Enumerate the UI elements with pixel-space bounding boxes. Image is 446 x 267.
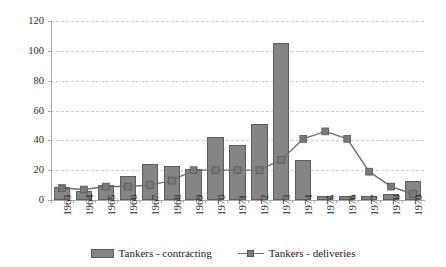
bar-swatch-icon (91, 249, 114, 258)
legend-label-deliveries: Tankers - deliveries (269, 248, 356, 259)
x-label-slot: 1969 (183, 203, 205, 243)
x-tick-mark (117, 200, 118, 203)
y-tick-label: 120 (0, 16, 44, 26)
x-label-slot: 1963 (51, 203, 73, 243)
x-label-slot: 1974 (292, 203, 314, 243)
line-marker[interactable] (212, 167, 219, 174)
x-label-slot: 1964 (73, 203, 95, 243)
line-marker[interactable] (124, 183, 131, 190)
line-marker[interactable] (278, 156, 285, 163)
line-marker[interactable] (366, 168, 373, 175)
x-label-slot: 1976 (336, 203, 358, 243)
x-tick-label: 1969 (194, 195, 205, 216)
x-tick-label: 1976 (347, 195, 358, 216)
x-tick-label: 1967 (150, 195, 161, 216)
x-label-slot: 1975 (314, 203, 336, 243)
x-tick-mark (248, 200, 249, 203)
legend-item-deliveries: Tankers - deliveries (238, 248, 356, 259)
line-swatch-icon (238, 249, 264, 258)
x-label-slot: 1978 (380, 203, 402, 243)
y-tick-label: 80 (0, 76, 44, 86)
x-tick-label: 1968 (172, 195, 183, 216)
y-tick-label: 0 (0, 195, 44, 205)
x-label-slot: 1965 (95, 203, 117, 243)
x-tick-mark (270, 200, 271, 203)
line-series-tankers-deliveries (51, 21, 424, 200)
line-marker[interactable] (322, 128, 329, 135)
y-tick-label: 100 (0, 46, 44, 56)
line-marker[interactable] (388, 183, 395, 190)
x-tick-mark (292, 200, 293, 203)
x-tick-mark (161, 200, 162, 203)
x-tick-mark (402, 200, 403, 203)
x-tick-mark (51, 200, 52, 203)
x-label-slot: 1971 (227, 203, 249, 243)
x-tick-label: 1974 (303, 195, 314, 216)
plot-area (51, 21, 424, 200)
x-tick-label: 1966 (128, 195, 139, 216)
x-tick-mark (358, 200, 359, 203)
x-tick-mark (205, 200, 206, 203)
x-label-slot: 1979 (402, 203, 424, 243)
legend-item-contracting: Tankers - contracting (91, 248, 212, 259)
y-tick-label: 40 (0, 135, 44, 145)
x-label-slot: 1972 (248, 203, 270, 243)
x-label-slot: 1973 (270, 203, 292, 243)
line-marker[interactable] (344, 135, 351, 142)
x-label-slot: 1966 (117, 203, 139, 243)
line-marker[interactable] (190, 167, 197, 174)
y-tick-label: 60 (0, 106, 44, 116)
line-marker[interactable] (146, 182, 153, 189)
x-tick-label: 1963 (62, 195, 73, 216)
x-tick-mark (227, 200, 228, 203)
x-tick-label: 1971 (237, 195, 248, 216)
line-marker[interactable] (81, 186, 88, 193)
x-tick-label: 1973 (281, 195, 292, 216)
x-tick-mark (380, 200, 381, 203)
x-tick-label: 1977 (369, 195, 380, 216)
x-tick-label: 1972 (259, 195, 270, 216)
x-tick-mark (314, 200, 315, 203)
x-tick-mark (95, 200, 96, 203)
x-tick-label: 1964 (84, 195, 95, 216)
x-tick-mark (139, 200, 140, 203)
line-marker[interactable] (300, 135, 307, 142)
line-marker[interactable] (59, 185, 66, 192)
x-tick-label: 1975 (325, 195, 336, 216)
x-tick-label: 1970 (216, 195, 227, 216)
x-tick-label: 1978 (391, 195, 402, 216)
line-marker[interactable] (234, 167, 241, 174)
chart-legend: Tankers - contracting Tankers - deliveri… (0, 243, 446, 263)
x-label-slot: 1967 (139, 203, 161, 243)
x-tick-mark (183, 200, 184, 203)
x-label-slot: 1970 (205, 203, 227, 243)
y-axis-labels: 020406080100120 (0, 0, 46, 267)
y-tick-label: 20 (0, 165, 44, 175)
x-axis-labels: 1963196419651966196719681969197019711972… (51, 203, 424, 243)
x-label-slot: 1977 (358, 203, 380, 243)
line-marker[interactable] (168, 177, 175, 184)
x-tick-label: 1965 (106, 195, 117, 216)
legend-label-contracting: Tankers - contracting (119, 248, 212, 259)
line-marker[interactable] (102, 183, 109, 190)
x-tick-label: 1979 (413, 195, 424, 216)
x-label-slot: 1968 (161, 203, 183, 243)
line-marker[interactable] (256, 167, 263, 174)
x-tick-mark (336, 200, 337, 203)
chart-container: 020406080100120 196319641965196619671968… (0, 0, 446, 267)
x-tick-mark (73, 200, 74, 203)
